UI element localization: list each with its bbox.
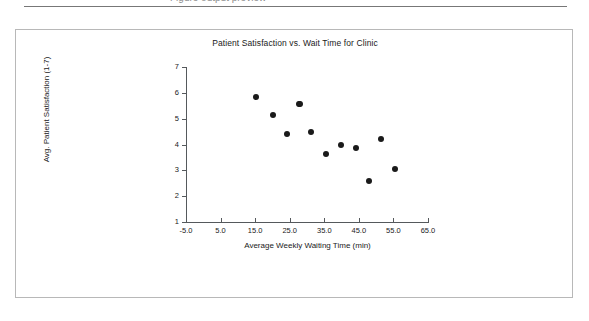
data-point	[270, 112, 276, 118]
y-axis-tick-label: 1	[166, 218, 179, 226]
x-axis-tick-label: 55.0	[376, 226, 410, 235]
y-axis-tick	[182, 67, 187, 68]
y-axis-tick	[182, 196, 187, 197]
x-axis-tick-label: 5.0	[204, 226, 238, 235]
y-axis-title: Avg. Patient Satisfaction (1-7)	[42, 30, 51, 190]
y-axis-tick-label: 7	[166, 63, 179, 71]
data-point	[308, 129, 314, 135]
x-axis-tick	[324, 218, 325, 223]
data-point	[323, 151, 329, 157]
x-axis-tick	[393, 218, 394, 223]
chart-title: Patient Satisfaction vs. Wait Time for C…	[16, 38, 574, 48]
y-axis-tick-label: 2	[166, 192, 179, 200]
y-axis-tick-label: 4	[166, 141, 179, 149]
data-point	[366, 178, 372, 184]
y-axis-tick-label: 5	[166, 115, 179, 123]
top-cut-text-label: Figure output preview	[170, 0, 266, 3]
data-point	[297, 101, 303, 107]
x-axis-tick-label: 25.0	[273, 226, 307, 235]
x-axis-tick	[255, 218, 256, 223]
x-axis-tick-label: 35.0	[307, 226, 341, 235]
x-axis-tick-label: 15.0	[238, 226, 272, 235]
x-axis-title: Average Weekly Waiting Time (min)	[186, 241, 429, 250]
data-point	[338, 142, 344, 148]
data-point	[392, 166, 398, 172]
y-axis-tick	[182, 93, 187, 94]
x-axis-tick-label: 45.0	[342, 226, 376, 235]
data-point	[353, 145, 359, 151]
x-axis-tick-label: -5.0	[169, 226, 203, 235]
data-point	[378, 136, 384, 142]
y-axis-tick	[182, 145, 187, 146]
x-axis-tick	[428, 218, 429, 223]
x-axis-tick	[221, 218, 222, 223]
y-axis-tick	[182, 119, 187, 120]
horizontal-rule	[24, 6, 567, 7]
data-point	[284, 131, 290, 137]
scatter-chart-figure: Patient Satisfaction vs. Wait Time for C…	[16, 30, 574, 297]
content-frame: Patient Satisfaction vs. Wait Time for C…	[15, 29, 573, 298]
top-cut-text-row: Figure output preview	[0, 0, 589, 5]
x-axis-tick-label: 65.0	[411, 226, 445, 235]
y-axis-tick-label: 3	[166, 166, 179, 174]
x-axis-tick	[290, 218, 291, 223]
y-axis-tick	[182, 170, 187, 171]
y-axis-tick-label: 6	[166, 89, 179, 97]
data-point	[253, 94, 259, 100]
x-axis-tick	[359, 218, 360, 223]
x-axis-tick	[186, 218, 187, 223]
